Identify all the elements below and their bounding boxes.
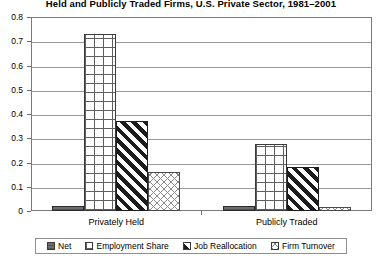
legend-item-job-reallocation[interactable]: Job Reallocation <box>183 242 257 251</box>
y-axis-tick-label: 0.2 <box>11 159 23 168</box>
legend-label: Net <box>58 242 71 251</box>
legend-item-firm-turnover[interactable]: Firm Turnover <box>271 242 335 251</box>
legend-label: Employment Share <box>96 242 168 251</box>
y-axis-tick-label: 0.4 <box>11 110 23 119</box>
bar-employment-share-privately-held <box>84 34 116 211</box>
legend-item-net[interactable]: Net <box>47 242 71 251</box>
x-axis-category-label: Privately Held <box>31 217 202 227</box>
y-axis-tick-label: 0.7 <box>11 37 23 46</box>
y-axis: 0.80.70.60.50.40.30.20.10 <box>0 0 31 230</box>
legend-label: Firm Turnover <box>282 242 335 251</box>
legend-swatch-icon <box>271 242 279 250</box>
legend-swatch-icon <box>47 242 55 250</box>
legend-swatch-icon <box>85 242 93 250</box>
x-axis: Privately HeldPublicly Traded <box>31 211 372 233</box>
y-axis-tick-label: 0.1 <box>11 183 23 192</box>
legend-swatch-icon <box>183 242 191 250</box>
bar-employment-share-publicly-traded <box>255 144 287 211</box>
legend-item-employment-share[interactable]: Employment Share <box>85 242 168 251</box>
bars-layer <box>31 17 372 211</box>
y-axis-tick-label: 0.3 <box>11 134 23 143</box>
chart-title: Held and Publicly Traded Firms, U.S. Pri… <box>0 0 382 10</box>
bar-chart: Held and Publicly Traded Firms, U.S. Pri… <box>0 0 382 260</box>
chart-legend: NetEmployment ShareJob ReallocationFirm … <box>35 238 347 254</box>
y-axis-tick-label: 0 <box>18 207 23 216</box>
bar-job-reallocation-privately-held <box>116 121 148 211</box>
y-axis-tick-label: 0.6 <box>11 62 23 71</box>
x-axis-category-label: Publicly Traded <box>202 217 373 227</box>
bar-job-reallocation-publicly-traded <box>287 167 319 211</box>
y-axis-tick-label: 0.5 <box>11 86 23 95</box>
bar-firm-turnover-privately-held <box>148 172 180 211</box>
x-axis-tick <box>201 211 202 215</box>
legend-label: Job Reallocation <box>194 242 257 251</box>
y-axis-tick-label: 0.8 <box>11 13 23 22</box>
